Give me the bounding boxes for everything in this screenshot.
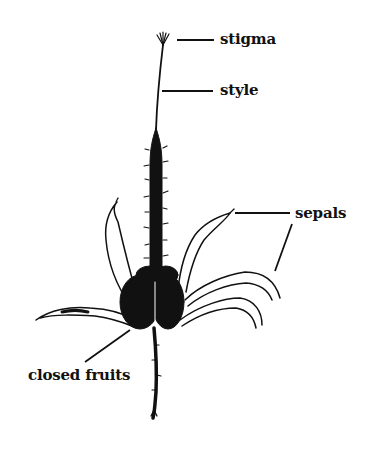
flower-diagram [0,0,371,454]
stigma-drawing [157,32,169,45]
label-closed-fruits: closed fruits [28,368,130,383]
leader-sepals-lower [275,224,292,271]
style-drawing [156,45,163,130]
closed-fruits-drawing [120,266,184,329]
leader-closed-fruits [85,330,130,362]
sepal-right-upright [178,213,230,292]
label-style: style [220,83,258,98]
sepal-right-lower-1 [185,272,280,306]
label-stigma: stigma [220,32,276,47]
label-sepals: sepals [295,206,346,221]
stalk-drawing [153,328,156,418]
